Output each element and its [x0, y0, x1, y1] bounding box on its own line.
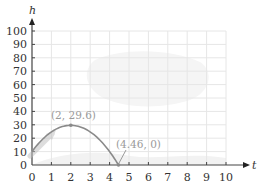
x-tick-label: 1 [48, 171, 55, 184]
root-marker [117, 163, 121, 167]
y-axis-label: h [29, 4, 36, 17]
x-axis-arrow-icon [243, 162, 250, 168]
y-tick-label: 70 [13, 65, 27, 78]
x-tick-label: 0 [29, 171, 36, 184]
x-tick-label: 7 [164, 171, 171, 184]
y-tick-label: 10 [13, 146, 27, 159]
vertex-marker [69, 124, 73, 128]
x-tick-label: 4 [106, 171, 113, 184]
x-tick-label: 8 [184, 171, 191, 184]
y-tick-label: 50 [13, 92, 27, 105]
y-tick-label: 40 [13, 105, 27, 118]
x-tick-label: 6 [145, 171, 152, 184]
y-tick-label: 100 [6, 25, 27, 38]
y-tick-label: 60 [13, 79, 27, 92]
y-axis-arrow-icon [29, 18, 35, 25]
x-tick-label: 10 [219, 171, 233, 184]
x-tick-label: 9 [203, 171, 210, 184]
y-tick-label: 90 [13, 38, 27, 51]
x-tick-label: 3 [87, 171, 94, 184]
y-tick-label: 80 [13, 52, 27, 65]
y-tick-label: 0 [20, 159, 27, 172]
y-tick-label: 30 [13, 119, 27, 132]
x-tick-label: 2 [67, 171, 74, 184]
root-label: (4.46, 0) [116, 138, 161, 150]
vertex-label: (2, 29.6) [51, 109, 96, 121]
x-axis-label: t [252, 159, 257, 172]
chart: 0123456789100102030405060708090100 t h (… [0, 0, 260, 187]
y-tick-label: 20 [13, 132, 27, 145]
x-tick-label: 5 [126, 171, 133, 184]
